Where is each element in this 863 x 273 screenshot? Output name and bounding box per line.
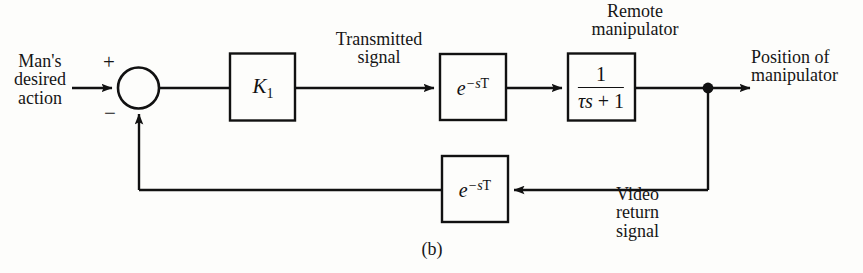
plant-numerator: 1 xyxy=(578,63,624,88)
plant-transfer-function: 1 τs + 1 xyxy=(578,63,624,113)
forward-delay-base: e xyxy=(457,77,466,99)
plant-den-one: 1 xyxy=(614,90,624,112)
gain-symbol: K xyxy=(252,74,266,98)
plant-den-tau-s: τs xyxy=(578,90,593,112)
output-label: Position of manipulator xyxy=(751,48,838,85)
figure-caption: (b) xyxy=(422,240,443,258)
plus-sign: + xyxy=(103,50,115,75)
diagram-lines-layer xyxy=(0,0,863,273)
video-return-label: Video return signal xyxy=(616,185,659,240)
transmitted-signal-label: Transmitted signal xyxy=(336,30,422,67)
gain-block-label: K1 xyxy=(252,74,273,102)
feedback-delay-label: e−sT xyxy=(459,178,491,203)
forward-delay-minus: − xyxy=(466,76,475,91)
input-label: Man's desired action xyxy=(14,52,66,107)
gain-subscript: 1 xyxy=(267,86,274,101)
plant-denominator: τs + 1 xyxy=(578,88,624,113)
feedback-delay-minus: − xyxy=(468,178,477,193)
plant-den-operator: + xyxy=(598,90,609,112)
feedback-delay-T: T xyxy=(483,178,492,193)
summing-junction xyxy=(118,68,159,109)
forward-delay-T: T xyxy=(481,76,490,91)
feedback-delay-base: e xyxy=(459,179,468,201)
pickoff-node xyxy=(703,83,714,94)
remote-manipulator-label: Remote manipulator xyxy=(592,2,679,39)
forward-delay-label: e−sT xyxy=(457,76,489,101)
minus-sign: − xyxy=(104,101,116,126)
block-diagram-figure: Man's desired action Transmitted signal … xyxy=(0,0,863,273)
